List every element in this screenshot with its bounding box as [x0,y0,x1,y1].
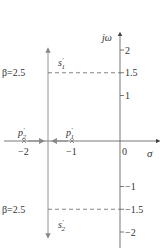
imag-tick-label: −1.5 [125,204,143,215]
real-tick-label: 0 [122,146,127,157]
gain-marker-label: β=2.5 [2,67,25,78]
imag-tick-label: 1.5 [125,67,138,78]
imag-tick-label: 2 [125,45,130,56]
gain-marker-label: β=2.5 [2,204,25,215]
imag-axis-label: jω [100,32,112,43]
imag-tick-label: −1 [125,181,136,192]
real-tick-label: −2 [18,146,29,157]
pole-label-p1: p′1 [65,126,74,141]
pole-label-p2: p′2 [17,126,27,141]
root-locus-diagram: jω σ 21.51−1−1.5−2−2−10 s′1s′2β=2.5β=2.5… [0,0,164,250]
imag-tick-label: −2 [125,227,136,238]
branch-label-s1: s′1 [58,56,65,71]
imag-tick-label: 1 [125,90,130,101]
labels-group: s′1s′2β=2.5β=2.5p′1p′2 [2,56,74,233]
branch-label-s2: s′2 [58,218,65,233]
real-tick-label: −1 [66,146,77,157]
real-axis-label: σ [147,147,153,159]
